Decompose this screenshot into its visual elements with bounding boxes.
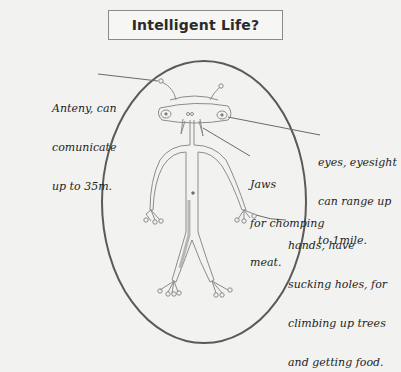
foot-left: [158, 281, 181, 296]
foot-right: [212, 281, 232, 297]
antenna-left: [162, 82, 176, 100]
jaw-right: [199, 119, 203, 136]
annotation-hands: hands, have sucking holes, for climbing …: [288, 213, 387, 372]
alien-head: [158, 79, 231, 145]
antenna-tip-right: [219, 84, 223, 88]
alien-body: [150, 145, 246, 282]
antenna-right: [210, 87, 220, 100]
annotation-antenna: Anteny, can comunicate up to 35m.: [52, 76, 117, 206]
leader-eyes: [228, 117, 320, 135]
jaw-left: [181, 119, 185, 134]
leader-jaws: [203, 128, 250, 156]
hand-left: [144, 210, 163, 224]
antenna-tip-left: [159, 79, 163, 83]
alien-hands: [144, 210, 256, 297]
